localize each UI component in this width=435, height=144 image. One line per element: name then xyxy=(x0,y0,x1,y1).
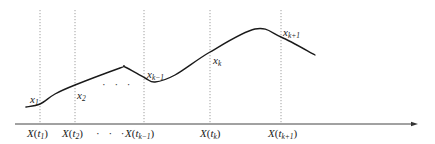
axis-label-Xt1: X(t1) xyxy=(27,128,48,141)
point-label-x1: x1 xyxy=(30,94,39,107)
sample-path-curve xyxy=(26,28,315,107)
axis-label-Xtk-1: X(tk−1) xyxy=(125,128,154,141)
point-label-xk+1: xk+1 xyxy=(283,27,300,40)
arrow-head-icon xyxy=(411,122,418,126)
axis-label-Xt2: X(t2) xyxy=(62,128,83,141)
diagram-canvas xyxy=(0,0,435,144)
time-guide-lines xyxy=(40,10,281,123)
axis-ellipsis: · · · xyxy=(96,128,128,139)
point-label-xk: xk xyxy=(213,55,221,68)
axis-label-Xtk: X(tk) xyxy=(200,128,220,141)
point-label-x2: x2 xyxy=(77,90,86,103)
point-label-xk-1: xk−1 xyxy=(147,69,164,82)
axis-label-Xtk+1: X(tk+1) xyxy=(268,128,297,141)
middle-ellipsis: · · · xyxy=(102,78,134,90)
